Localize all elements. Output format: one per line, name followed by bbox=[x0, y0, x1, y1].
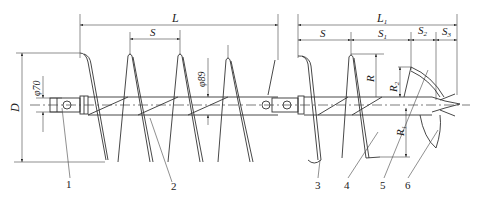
part-label-1: 1 bbox=[66, 178, 72, 190]
dimension-labels: L L1 S S S1 S2 S3 D φ70 φ89 R R2 R1 bbox=[8, 11, 452, 137]
label-S2: S2 bbox=[418, 24, 428, 38]
label-D: D bbox=[8, 103, 22, 113]
part-label-3: 3 bbox=[315, 179, 321, 191]
part-label-5: 5 bbox=[380, 179, 386, 191]
label-L: L bbox=[171, 11, 179, 25]
label-S1: S1 bbox=[378, 27, 387, 41]
part-label-4: 4 bbox=[344, 179, 350, 191]
label-L1: L1 bbox=[376, 11, 387, 26]
label-phi89: φ89 bbox=[196, 71, 207, 87]
auger-drawing: L L1 S S S1 S2 S3 D φ70 φ89 R R2 R1 1 2 … bbox=[0, 0, 481, 197]
label-phi70: φ70 bbox=[31, 80, 42, 96]
dimension-lines bbox=[22, 25, 457, 162]
part-numbers: 1 2 3 4 5 6 bbox=[66, 178, 411, 192]
label-S-right: S bbox=[320, 27, 326, 39]
leader-lines bbox=[62, 70, 438, 182]
part-label-6: 6 bbox=[405, 179, 411, 191]
label-S3: S3 bbox=[442, 25, 452, 39]
label-R1: R1 bbox=[394, 126, 408, 137]
part-label-2: 2 bbox=[171, 180, 177, 192]
label-R2: R2 bbox=[387, 81, 401, 93]
label-R: R bbox=[364, 75, 376, 83]
label-S-left: S bbox=[150, 26, 156, 38]
auger-flights bbox=[80, 53, 444, 163]
